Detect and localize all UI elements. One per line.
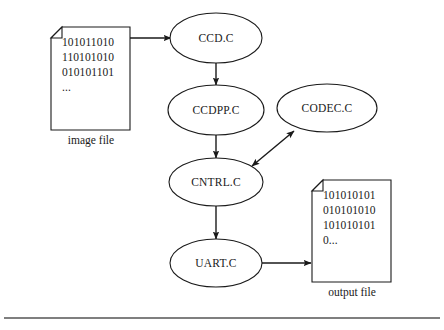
node-ccd-c-label: CCD.C — [198, 32, 233, 44]
node-uart-c-label: UART.C — [195, 257, 237, 269]
node-codec-c: CODEC.C — [277, 84, 377, 132]
output-file-fold-corner — [312, 180, 323, 191]
image-file-caption: image file — [68, 134, 114, 147]
image-file-line-1: 101011010 — [62, 36, 114, 48]
edge-cntrl-codec-bidirectional — [252, 131, 294, 166]
document-image-file: 101011010 110101010 010101101 ... image … — [51, 27, 130, 147]
image-file-line-3: 010101101 — [62, 66, 114, 78]
output-file-line-1: 101010101 — [323, 189, 376, 201]
image-file-fold-corner — [51, 27, 62, 38]
output-file-caption: output file — [328, 286, 376, 299]
output-file-line-2: 010101010 — [323, 204, 376, 216]
document-output-file: 101010101 010101010 101010101 0... outpu… — [312, 180, 391, 299]
node-cntrl-c: CNTRL.C — [169, 158, 263, 206]
node-codec-c-label: CODEC.C — [302, 102, 353, 114]
node-ccdpp-c-label: CCDPP.C — [192, 104, 239, 116]
output-file-line-4: 0... — [323, 234, 338, 246]
node-uart-c: UART.C — [170, 239, 262, 287]
image-file-line-4: ... — [62, 81, 71, 93]
node-ccd-c: CCD.C — [170, 13, 262, 63]
node-cntrl-c-label: CNTRL.C — [191, 176, 241, 188]
output-file-line-3: 101010101 — [323, 219, 376, 231]
image-file-line-2: 110101010 — [62, 51, 114, 63]
diagram-canvas: 101011010 110101010 010101101 ... image … — [0, 0, 444, 330]
flow-diagram: 101011010 110101010 010101101 ... image … — [0, 0, 444, 330]
node-ccdpp-c: CCDPP.C — [168, 85, 264, 135]
